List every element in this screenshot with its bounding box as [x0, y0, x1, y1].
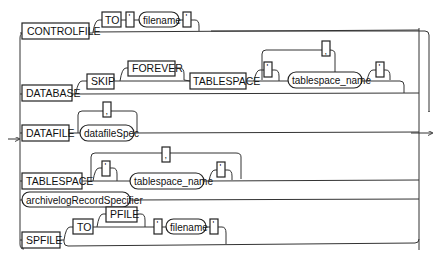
svg-text:SPFILE: SPFILE	[26, 234, 62, 246]
database-branch: DATABASE SKIP FOREVER TABLESPACE , ' tab…	[20, 41, 419, 101]
svg-text:archivelogRecordSpecifier: archivelogRecordSpecifier	[26, 195, 143, 206]
tablespace-branch: TABLESPACE , ' tablespace_name '	[20, 147, 419, 189]
svg-text:PFILE: PFILE	[110, 208, 139, 220]
svg-text:': '	[213, 219, 215, 229]
svg-text:tablespace_name: tablespace_name	[292, 75, 371, 86]
svg-text:': '	[129, 12, 131, 22]
spfile-branch: SPFILE TO PFILE ' filename '	[20, 207, 419, 248]
svg-text:': '	[379, 62, 381, 72]
svg-text:,: ,	[106, 106, 109, 116]
svg-text:CONTROLFILE: CONTROLFILE	[27, 25, 101, 37]
svg-text:': '	[105, 161, 107, 171]
svg-text:tablespace_name: tablespace_name	[134, 176, 213, 187]
svg-text:filename: filename	[143, 15, 181, 26]
archivelog-branch: archivelogRecordSpecifier	[20, 192, 419, 207]
svg-text:TO: TO	[77, 221, 91, 233]
svg-text:SKIP: SKIP	[91, 75, 115, 87]
svg-text:': '	[186, 12, 188, 22]
svg-text:,: ,	[165, 150, 168, 160]
svg-text:filename: filename	[170, 222, 208, 233]
svg-text:DATABASE: DATABASE	[26, 87, 80, 99]
svg-text:': '	[267, 62, 269, 72]
svg-text:TO: TO	[105, 14, 119, 26]
controlfile-branch: CONTROLFILE TO ' filename '	[20, 12, 419, 39]
syntax-diagram: CONTROLFILE TO ' filename ' DATABASE SKI…	[0, 0, 437, 257]
datafile-branch: DATAFILE , datafileSpec	[20, 102, 419, 141]
svg-text:DATAFILE: DATAFILE	[26, 127, 75, 139]
svg-text:': '	[220, 162, 222, 172]
svg-text:datafileSpec: datafileSpec	[84, 128, 139, 139]
svg-text:': '	[157, 219, 159, 229]
svg-text:,: ,	[325, 46, 328, 56]
